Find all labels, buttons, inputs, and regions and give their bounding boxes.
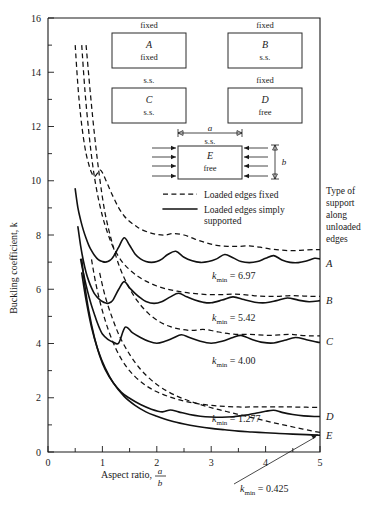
plate-C-top-edge-label: s.s.	[144, 75, 155, 85]
plate-case-D: fixed D free	[228, 75, 302, 123]
x-tick-label: 1	[100, 457, 105, 468]
y-tick-label: 14	[31, 67, 41, 78]
x-tick-label: 5	[318, 457, 323, 468]
plate-E-dim-b-group: b	[271, 145, 287, 179]
plate-E-dim-b: b	[282, 157, 287, 167]
x-axis-title: Aspect ratio, a b	[101, 466, 166, 488]
kmin-annotation-B: kmin = 5.42	[212, 312, 255, 326]
plate-E-right-load-arrows	[244, 146, 268, 178]
y-tick-label: 16	[31, 13, 41, 24]
kmin-annotation-A: kmin = 6.97	[212, 270, 255, 284]
curve-b-solid	[78, 227, 320, 304]
legend: Loaded edges fixed Loaded edges simply s…	[163, 190, 285, 226]
plate-B-top-edge-label: fixed	[256, 20, 274, 30]
curve-e-solid	[82, 273, 320, 435]
y-axis-title: Buckling coefficient, k	[8, 222, 19, 314]
side-note-line-4: unloaded	[326, 222, 361, 232]
plate-A-top-edge-label: fixed	[140, 20, 158, 30]
x-axis-title-numerator: a	[158, 466, 163, 476]
plate-A-bottom-edge-label: fixed	[140, 52, 158, 62]
plate-case-C: s.s. C s.s.	[112, 75, 186, 123]
plate-D-top-edge-label: fixed	[256, 75, 274, 85]
x-axis-title-denominator: b	[158, 478, 163, 488]
curve-end-label-C: C	[326, 336, 334, 347]
x-axis-title-text: Aspect ratio,	[101, 469, 152, 480]
x-tick-label: 3	[209, 457, 214, 468]
plate-E-bottom-edge-label: free	[203, 163, 216, 173]
plate-C-bottom-edge-label: s.s.	[144, 107, 155, 117]
y-tick-label: 10	[31, 175, 41, 186]
plate-D-bottom-edge-label: free	[258, 107, 271, 117]
side-note-line-1: Type of	[326, 186, 356, 196]
plate-E-dim-a: a	[208, 123, 213, 133]
axes-layer: 0246810121416012345	[31, 13, 323, 468]
curve-end-label-A: A	[325, 258, 333, 269]
y-tick-label: 12	[31, 121, 41, 132]
plate-E-left-load-arrows	[152, 146, 176, 178]
curve-letters-layer: ABCDE	[325, 258, 334, 441]
side-note-line-5: edges	[326, 234, 348, 244]
kmin-text-C: kmin = 4.00	[212, 355, 255, 369]
plate-case-E: a s.s. E free	[152, 123, 287, 179]
plate-B-letter: B	[262, 39, 268, 50]
y-tick-label: 2	[36, 392, 41, 403]
kmin-annotation-D: kmin = 1.277	[212, 413, 260, 427]
curve-a-solid	[75, 189, 320, 263]
kmin-arrow-E	[234, 437, 316, 484]
legend-label-solid-line1: Loaded edges simply	[204, 205, 285, 215]
kmin-annotation-E: kmin = 0.425	[234, 434, 318, 497]
x-tick-label: 0	[46, 457, 51, 468]
y-tick-label: 4	[36, 338, 41, 349]
plate-C-letter: C	[146, 94, 153, 105]
plate-case-A: fixed A fixed	[112, 20, 186, 68]
kmin-text-A: kmin = 6.97	[212, 270, 255, 284]
curve-d-solid	[82, 259, 320, 417]
plate-E-letter: E	[206, 150, 213, 161]
plate-E-top-edge-label: s.s.	[205, 136, 216, 146]
plate-A-letter: A	[145, 39, 153, 50]
y-tick-label: 0	[36, 447, 41, 458]
buckling-coefficient-chart: 0246810121416012345 Buckling coefficient…	[0, 0, 382, 507]
y-tick-label: 8	[36, 230, 41, 241]
curve-e-dashed	[100, 273, 320, 432]
legend-label-solid-line2: supported	[204, 216, 242, 226]
side-note-line-3: along	[326, 210, 347, 220]
kmin-annotation-C: kmin = 4.00	[212, 355, 255, 369]
kmin-text-B: kmin = 5.42	[212, 312, 255, 326]
kmin-text-E: kmin = 0.425	[240, 483, 288, 497]
kmin-text-D: kmin = 1.277	[212, 413, 260, 427]
curve-end-label-D: D	[325, 411, 334, 422]
legend-label-dashed: Loaded edges fixed	[204, 190, 279, 200]
y-tick-label: 6	[36, 284, 41, 295]
figure-root: 0246810121416012345 Buckling coefficient…	[0, 0, 382, 507]
side-note-line-2: support	[326, 198, 355, 208]
plate-case-B: fixed B s.s.	[228, 20, 302, 68]
curve-end-label-B: B	[326, 295, 333, 306]
curve-end-label-E: E	[325, 430, 333, 441]
side-note: Type of support along unloaded edges	[326, 186, 361, 244]
plate-D-letter: D	[260, 94, 269, 105]
plate-B-bottom-edge-label: s.s.	[260, 52, 271, 62]
